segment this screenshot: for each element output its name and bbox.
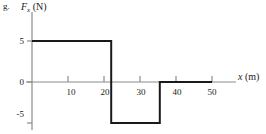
plot-area	[0, 0, 266, 134]
y-axis-ticks	[27, 41, 32, 123]
force-vs-position-figure: g. Fx (N) x (m) 5 0 -5 10 20 30 40 50	[0, 0, 266, 134]
